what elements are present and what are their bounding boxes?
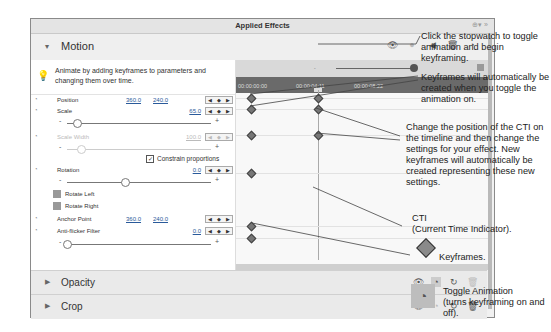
callout-change-cti: Change the position of the CTI on the ti… xyxy=(406,122,551,188)
eye-icon[interactable]: 👁 xyxy=(387,40,397,50)
param-name: Anchor Point xyxy=(57,216,91,222)
keyframe-diamond[interactable] xyxy=(247,169,257,179)
stopwatch-icon[interactable]: ◔ xyxy=(34,227,38,233)
callout-cti: CTI (Current Time Indicator). xyxy=(412,213,551,235)
keyframe-diamond[interactable] xyxy=(247,105,257,115)
ruler-time: 00:00:00:00 xyxy=(238,83,267,89)
keyframe-dot-icon[interactable]: ● xyxy=(407,40,417,50)
stopwatch-legend-icon: ◔ xyxy=(411,284,435,308)
zoom-out-icon[interactable]: - xyxy=(314,65,316,71)
param-rotation: ◔ Rotation 0.0 ◀◆▶ xyxy=(31,166,235,176)
rotate-right-icon xyxy=(53,202,61,210)
keyframe-diamond[interactable] xyxy=(247,234,257,244)
scale-slider[interactable]: -+ xyxy=(59,119,219,127)
keyframe-diamond[interactable] xyxy=(314,94,324,104)
checkbox-icon[interactable]: ✓ xyxy=(146,155,154,163)
zoom-slider-knob[interactable] xyxy=(410,64,418,72)
expand-arrow-icon[interactable]: ▶ xyxy=(45,278,50,286)
ruler-time: 00:00:08:22 xyxy=(354,83,383,89)
callout-keyframes: Keyframes. xyxy=(439,252,485,263)
anchor-y-value[interactable]: 240.0 xyxy=(153,216,168,222)
stopwatch-icon[interactable]: ◔ xyxy=(34,215,38,221)
keyframe-nav[interactable]: ◀◆▶ xyxy=(205,166,233,174)
section-label: Opacity xyxy=(61,277,95,288)
rotation-slider[interactable]: -+ xyxy=(59,178,219,186)
motion-header[interactable]: ▾ Motion 👁 ● ◀ 🗑 ◔ xyxy=(31,34,487,61)
cti-line[interactable] xyxy=(318,90,319,260)
toggle-title: Toggle Animation xyxy=(443,286,551,297)
anchor-x-value[interactable]: 360.0 xyxy=(126,216,141,222)
stopwatch-icon[interactable]: ◔ xyxy=(34,107,38,113)
stopwatch-icon[interactable]: ◔ xyxy=(34,166,38,172)
rotate-left-button[interactable]: Rotate Left xyxy=(53,190,94,198)
param-name: Scale xyxy=(57,108,72,114)
expand-arrow-icon[interactable]: ▶ xyxy=(45,302,50,310)
keyframe-nav: ◀◆▶ xyxy=(205,133,233,141)
param-scale-width: ◔ Scale Width 100.0 ◀◆▶ xyxy=(31,133,235,143)
keyframe-nav[interactable]: ◀◆▶ xyxy=(205,96,233,104)
anti-flicker-slider[interactable]: -+ xyxy=(59,240,219,248)
rotation-value[interactable]: 0.0 xyxy=(193,167,201,173)
param-scale: ◔ Scale 65.0 ◀◆▶ xyxy=(31,107,235,117)
keyframe-nav[interactable]: ◀◆▶ xyxy=(205,215,233,223)
collapse-arrow-icon[interactable]: ▾ xyxy=(45,42,49,51)
hint-text: Animate by adding keyframes to parameter… xyxy=(55,66,230,86)
param-name: Scale Width xyxy=(57,134,89,140)
keyframe-diamond[interactable] xyxy=(314,131,324,141)
scale-width-slider: -+ xyxy=(59,145,219,153)
param-name: Position xyxy=(57,97,78,103)
section-label: Crop xyxy=(61,301,83,312)
param-anti-flicker: ◔ Anti-flicker Filter 0.0 ◀◆▶ xyxy=(31,227,235,237)
callout-toggle-animation: Toggle Animation (turns keyframing on an… xyxy=(443,286,551,319)
keyframe-diamond[interactable] xyxy=(314,105,324,115)
keyframe-diamond[interactable] xyxy=(247,222,257,232)
callout-auto-keyframes: Keyframes will automatically be created … xyxy=(421,72,551,105)
toggle-desc: (turns keyframing on and off). xyxy=(443,297,551,319)
param-name: Anti-flicker Filter xyxy=(57,228,100,234)
lightbulb-icon: 💡 xyxy=(37,70,49,81)
panel-title: Applied Effects xyxy=(31,21,494,30)
scale-width-value: 100.0 xyxy=(186,134,201,140)
zoom-slider-track[interactable] xyxy=(336,68,416,69)
anti-flicker-value[interactable]: 0.0 xyxy=(193,228,201,234)
position-y-value[interactable]: 240.0 xyxy=(153,97,168,103)
stopwatch-icon[interactable]: ◔ xyxy=(34,96,38,102)
position-x-value[interactable]: 360.0 xyxy=(126,97,141,103)
cti-title: CTI xyxy=(412,213,551,224)
zoom-fit-button[interactable] xyxy=(477,64,484,71)
rotate-right-button[interactable]: Rotate Right xyxy=(53,202,98,210)
keyframe-diamond[interactable] xyxy=(247,94,257,104)
keyframe-diamond[interactable] xyxy=(247,131,257,141)
keyframe-nav[interactable]: ◀◆▶ xyxy=(205,227,233,235)
stopwatch-icon: ◔ xyxy=(34,133,38,139)
cti-desc: (Current Time Indicator). xyxy=(412,224,551,235)
callout-stopwatch: Click the stopwatch to toggle animation … xyxy=(421,31,551,64)
scale-value[interactable]: 65.0 xyxy=(189,108,201,114)
keyframe-nav[interactable]: ◀◆▶ xyxy=(205,107,233,115)
constrain-proportions-checkbox[interactable]: ✓Constrain proportions xyxy=(146,155,219,163)
param-position: ◔ Position 360.0 240.0 ◀◆▶ xyxy=(31,96,235,106)
panel-menu-icon[interactable]: ⊕▾ » xyxy=(472,21,488,29)
param-anchor-point: ◔ Anchor Point 360.0 240.0 ◀◆▶ xyxy=(31,215,235,225)
motion-label: Motion xyxy=(61,40,94,52)
param-name: Rotation xyxy=(57,167,79,173)
rotate-left-icon xyxy=(53,190,61,198)
hint-box: 💡 Animate by adding keyframes to paramet… xyxy=(31,60,235,95)
